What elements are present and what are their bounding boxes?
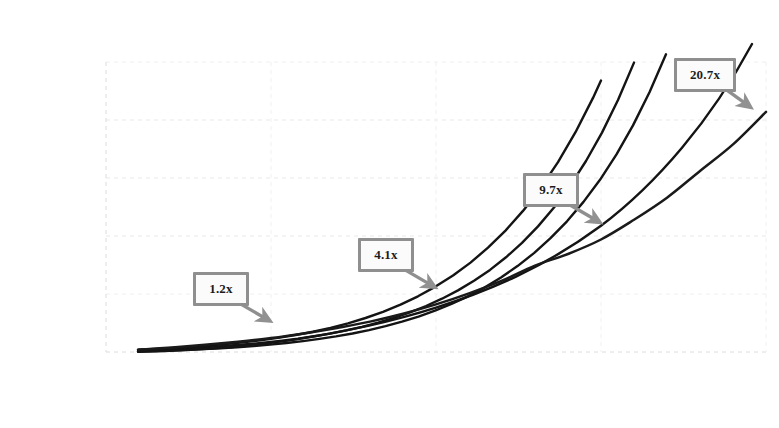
data-series-curve [138,81,601,350]
annotation-label-2: 4.1x [358,238,414,272]
annotation-label-3: 9.7x [523,173,579,207]
annotation-label-1: 1.2x [193,272,249,306]
chart-canvas [0,0,779,428]
chart-container: Investment Milestones by Decade Multiple… [0,0,779,428]
series-curve [139,112,766,350]
growth-curve [138,54,666,351]
annotation-label-4: 20.7x [674,58,736,92]
